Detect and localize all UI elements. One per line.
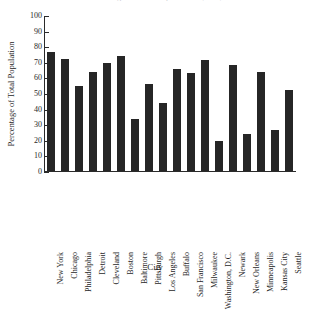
y-axis-tick-label: 100 <box>18 12 42 20</box>
bar <box>103 63 111 171</box>
y-axis-tick-label: 0 <box>18 168 42 176</box>
bar <box>131 119 139 171</box>
y-axis-tick-mark <box>45 47 49 48</box>
bar <box>173 69 181 171</box>
y-axis-tick-label: 40 <box>18 106 42 114</box>
plot-area <box>44 16 296 172</box>
bar <box>229 65 237 171</box>
y-axis-tick-label: 30 <box>18 121 42 129</box>
y-axis-tick-label: 70 <box>18 59 42 67</box>
x-axis-line <box>44 171 296 172</box>
x-axis-tick-labels: New YorkChicagoPhiladelphiaDetroitClevel… <box>44 174 296 254</box>
bar <box>201 60 209 171</box>
y-axis-tick-mark <box>45 32 49 33</box>
bar <box>243 134 251 171</box>
bar <box>145 84 153 171</box>
bar <box>187 73 195 171</box>
y-axis-tick-label: 10 <box>18 152 42 160</box>
bar <box>117 56 125 171</box>
y-axis-title: Percentage of Total Population <box>4 16 18 172</box>
bar <box>61 59 69 171</box>
bar <box>159 103 167 171</box>
bar <box>89 72 97 171</box>
y-axis-tick-label: 50 <box>18 90 42 98</box>
bar <box>257 72 265 171</box>
y-axis-tick-labels: 1009080706050403020100 <box>18 10 42 178</box>
bar <box>271 130 279 171</box>
bar <box>75 86 83 171</box>
bar <box>215 141 223 171</box>
bar <box>47 52 55 171</box>
x-axis-title: City <box>0 262 310 272</box>
y-axis-tick-mark <box>45 16 49 17</box>
chart-title: Percentage of Total Population by City <box>0 0 310 1</box>
y-axis-tick-mark <box>45 172 49 173</box>
y-axis-tick-label: 60 <box>18 74 42 82</box>
y-axis-tick-label: 20 <box>18 137 42 145</box>
y-axis-tick-label: 90 <box>18 28 42 36</box>
y-axis-tick-label: 80 <box>18 43 42 51</box>
y-axis-title-text: Percentage of Total Population <box>6 42 16 147</box>
bar <box>285 90 293 171</box>
